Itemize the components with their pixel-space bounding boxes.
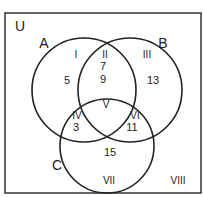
region-vii-label: VII [103,175,115,186]
region-i-value: 5 [64,75,70,86]
region-vi-value: 11 [126,122,137,133]
region-vii-value: 15 [104,147,116,158]
region-iv-label: IV [72,110,81,121]
region-ii-value-2: 9 [100,74,106,85]
region-vi-label: VI [130,110,139,121]
region-ii-label: II [102,49,108,60]
set-c-label: C [52,158,62,172]
venn-diagram [0,0,203,197]
region-iii-label: III [143,49,151,60]
universe-label: U [15,19,25,33]
region-iii-value: 13 [147,75,159,86]
region-iv-value: 3 [73,122,79,133]
region-i-label: I [75,49,78,60]
set-a-label: A [39,36,48,50]
set-b-label: B [158,36,167,50]
region-v-label: V [103,99,110,110]
region-viii-label: VIII [170,175,185,186]
circle-a [32,38,136,142]
region-ii-value: 7 [100,61,106,72]
